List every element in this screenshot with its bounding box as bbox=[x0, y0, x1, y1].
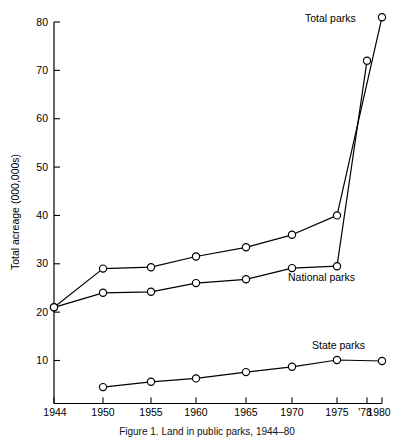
x-axis-ticks bbox=[54, 398, 382, 404]
x-axis-tick-labels: 1944195019551960196519701975'781980 bbox=[43, 406, 391, 418]
figure-caption: Figure 1. Land in public parks, 1944–80 bbox=[0, 426, 414, 437]
data-point-marker bbox=[333, 263, 340, 270]
data-point-marker bbox=[242, 276, 249, 283]
data-point-marker bbox=[147, 378, 154, 385]
data-point-marker bbox=[288, 363, 295, 370]
x-tick-label: 1950 bbox=[91, 406, 115, 418]
line-chart: 1020304050607080 19441950195519601965197… bbox=[0, 0, 414, 440]
y-tick-label: 20 bbox=[36, 306, 48, 318]
data-point-marker bbox=[363, 57, 370, 64]
data-point-marker bbox=[333, 212, 340, 219]
figure-container: 1020304050607080 19441950195519601965197… bbox=[0, 0, 414, 440]
data-point-marker bbox=[192, 253, 199, 260]
series-label-total-parks: Total parks bbox=[305, 12, 356, 24]
data-point-marker bbox=[333, 356, 340, 363]
data-point-marker bbox=[99, 384, 106, 391]
data-point-marker bbox=[378, 14, 385, 21]
data-point-marker bbox=[288, 231, 295, 238]
y-tick-label: 50 bbox=[36, 161, 48, 173]
series-state-parks bbox=[99, 356, 385, 390]
y-axis-tick-labels: 1020304050607080 bbox=[36, 16, 48, 367]
data-point-marker bbox=[99, 289, 106, 296]
series-layer bbox=[50, 14, 385, 391]
series-inline-labels: Total parksNational parksState parks bbox=[288, 12, 365, 351]
data-point-marker bbox=[242, 369, 249, 376]
y-tick-label: 60 bbox=[36, 112, 48, 124]
x-tick-label: 1980 bbox=[367, 406, 391, 418]
y-tick-label: 30 bbox=[36, 257, 48, 269]
series-label-national-parks: National parks bbox=[288, 271, 355, 283]
series-line bbox=[54, 17, 382, 307]
x-tick-label: 1965 bbox=[234, 406, 258, 418]
y-tick-label: 40 bbox=[36, 209, 48, 221]
data-point-marker bbox=[192, 280, 199, 287]
x-tick-label: 1944 bbox=[43, 406, 67, 418]
data-point-marker bbox=[147, 288, 154, 295]
x-tick-label: 1970 bbox=[280, 406, 304, 418]
x-tick-label: 1960 bbox=[184, 406, 208, 418]
data-point-marker bbox=[147, 264, 154, 271]
y-tick-label: 70 bbox=[36, 64, 48, 76]
y-tick-label: 10 bbox=[36, 354, 48, 366]
data-point-marker bbox=[378, 357, 385, 364]
data-point-marker bbox=[192, 375, 199, 382]
data-point-marker bbox=[50, 304, 57, 311]
data-point-marker bbox=[99, 265, 106, 272]
data-point-marker bbox=[242, 244, 249, 251]
y-axis-title: Total acreage (000,000s) bbox=[9, 154, 21, 270]
x-tick-label: 1955 bbox=[139, 406, 163, 418]
x-tick-label: 1975 bbox=[325, 406, 349, 418]
y-tick-label: 80 bbox=[36, 16, 48, 28]
series-label-state-parks: State parks bbox=[312, 339, 365, 351]
